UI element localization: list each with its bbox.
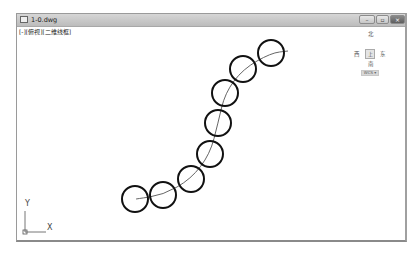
circle-4[interactable] (197, 141, 223, 167)
guide-arc[interactable] (136, 51, 288, 199)
ucs-icon (23, 211, 46, 234)
drawing-canvas[interactable] (0, 0, 420, 254)
circle-8[interactable] (258, 40, 284, 66)
circle-3[interactable] (178, 166, 204, 192)
circle-1[interactable] (122, 186, 148, 212)
circle-array[interactable] (122, 40, 284, 212)
circle-7[interactable] (230, 56, 256, 82)
circle-6[interactable] (212, 80, 238, 106)
circle-2[interactable] (150, 182, 176, 208)
